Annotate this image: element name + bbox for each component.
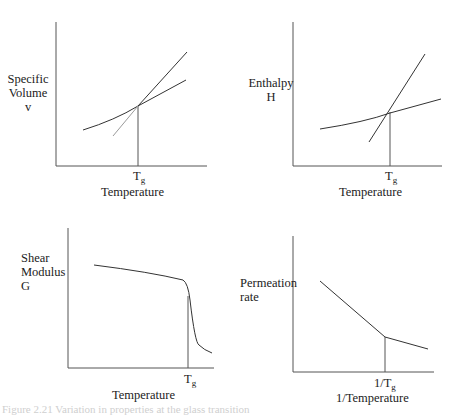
ylabel-shear-modulus: Shear Modulus G [21,251,65,293]
ylabel-line: Specific [2,72,54,86]
panel-specific-volume [56,22,207,166]
xlabel: Temperature [112,388,175,402]
rubbery-line [369,54,425,142]
xlabel: Temperature [101,185,164,199]
modulus-curve [94,265,212,353]
ylabel-specific-volume: Specific Volume v [2,72,54,114]
panel-permeation-rate [293,236,434,372]
ylabel-line: Enthalpy [245,76,297,90]
extrapolated-line [113,106,138,136]
panel-shear-modulus [68,228,214,368]
ylabel-enthalpy: Enthalpy H [245,76,297,104]
permeation-line [320,281,428,349]
ylabel-line: Modulus [21,265,65,279]
ylabel-line: Shear [21,251,65,265]
figure-caption: Figure 2.21 Variation in properties at t… [2,403,250,415]
diagram-canvas [0,0,450,415]
ylabel-line: rate [240,290,297,304]
tick-tg: Tg [184,372,196,390]
ylabel-line: Volume [2,86,54,100]
panel-enthalpy [293,22,442,166]
rubbery-line [138,52,187,106]
ylabel-line: v [2,100,54,114]
ylabel-line: G [21,279,65,293]
ylabel-permeation-rate: Permeation rate [240,276,297,304]
glassy-curve [83,80,186,130]
ylabel-line: Permeation [240,276,297,290]
xlabel: Temperature [339,185,402,199]
xlabel: 1/Temperature [336,391,409,405]
ylabel-line: H [245,90,297,104]
